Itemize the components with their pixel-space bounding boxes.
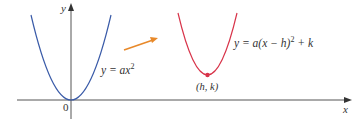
shifted-parabola-equation: y = a(x − h)2 + k [233, 35, 314, 50]
origin-label: 0 [63, 101, 69, 113]
shifted-eq-main: y = a(x − h) [233, 37, 291, 50]
shifted-eq-suffix: + k [294, 37, 314, 49]
base-eq-main: y = ax [100, 64, 131, 77]
x-axis-label: x [342, 103, 348, 115]
parabola-shift-diagram: y 0 x y = ax2 y = a(x − h)2 + k (h, k) [0, 0, 353, 121]
base-parabola-equation: y = ax2 [100, 62, 134, 77]
base-eq-sup: 2 [130, 62, 134, 71]
y-axis-label: y [60, 2, 66, 14]
vertex-label: (h, k) [196, 81, 219, 93]
y-axis-arrow-icon [68, 3, 74, 11]
shift-arrow [124, 40, 153, 50]
vertex-point [205, 73, 209, 77]
shifted-parabola-curve [178, 13, 237, 75]
shift-arrow-head-icon [150, 37, 158, 43]
